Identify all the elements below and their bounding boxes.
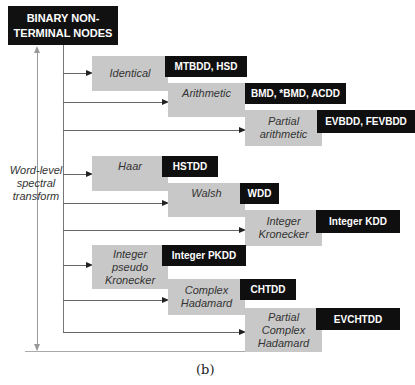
node-label-line2: Kronecker bbox=[258, 228, 308, 241]
tag-hstdd: HSTDD bbox=[162, 156, 218, 177]
figure-caption: (b) bbox=[196, 362, 214, 377]
node-haar: Haar bbox=[92, 156, 168, 191]
connector-line bbox=[63, 102, 163, 103]
tag-integer-pkdd: Integer PKDD bbox=[162, 245, 246, 266]
arrow-down-icon bbox=[34, 344, 40, 351]
connector-line bbox=[63, 174, 87, 175]
node-label-line3: Kronecker bbox=[105, 274, 155, 287]
arrow-up-icon bbox=[34, 46, 40, 53]
node-complex-hadamard: Complex Hadamard bbox=[168, 279, 245, 315]
node-partial-arithmetic: Partial arithmetic bbox=[245, 110, 322, 146]
node-label-line2: Hadamard bbox=[181, 297, 232, 310]
node-label-line3: Hadamard bbox=[258, 337, 309, 350]
tag-integer-kdd: Integer KDD bbox=[316, 210, 400, 233]
node-walsh: Walsh bbox=[168, 183, 245, 217]
side-label-line3: transform bbox=[0, 190, 72, 203]
node-label-line1: Integer bbox=[113, 248, 147, 261]
node-label-line2: pseudo bbox=[112, 261, 148, 274]
bottom-baseline bbox=[25, 351, 250, 352]
tag-mtbdd-hsd: MTBDD, HSD bbox=[165, 56, 247, 77]
tag-chtdd: CHTDD bbox=[240, 279, 296, 300]
side-label-word-level-spectral-transform: Word-level spectral transform bbox=[0, 164, 72, 203]
connector-line bbox=[63, 265, 87, 266]
root-node-binary-non-terminal-nodes: BINARY NON- TERMINAL NODES bbox=[8, 6, 118, 45]
node-label: Walsh bbox=[191, 187, 221, 200]
tag-wdd: WDD bbox=[240, 183, 279, 204]
connector-line bbox=[63, 73, 87, 74]
node-label: Identical bbox=[110, 67, 151, 80]
connector-line bbox=[63, 332, 240, 333]
node-label-line1: Partial bbox=[268, 311, 299, 324]
node-arithmetic: Arithmetic bbox=[168, 83, 245, 117]
connector-line bbox=[63, 203, 163, 204]
connector-line bbox=[63, 230, 240, 231]
node-label-line1: Complex bbox=[185, 284, 228, 297]
trunk-line bbox=[63, 45, 64, 333]
tag-evchtdd: EVCHTDD bbox=[316, 308, 400, 330]
node-label-line1: Partial bbox=[268, 115, 299, 128]
node-identical: Identical bbox=[92, 56, 168, 91]
node-label-line1: Integer bbox=[266, 215, 300, 228]
node-label-line2: arithmetic bbox=[260, 128, 308, 141]
tag-bmd-acdd: BMD, *BMD, ACDD bbox=[245, 83, 346, 104]
node-partial-complex-hadamard: Partial Complex Hadamard bbox=[245, 308, 322, 352]
node-integer-pseudo-kronecker: Integer pseudo Kronecker bbox=[92, 245, 168, 289]
node-label-line2: Complex bbox=[262, 324, 305, 337]
root-label-line2: TERMINAL NODES bbox=[14, 26, 113, 41]
tag-evbdd-fevbdd: EVBDD, FEVBDD bbox=[317, 110, 415, 133]
node-integer-kronecker: Integer Kronecker bbox=[245, 210, 322, 246]
node-label: Haar bbox=[118, 160, 142, 173]
connector-line bbox=[63, 130, 240, 131]
side-label-line2: spectral bbox=[0, 177, 72, 190]
root-label-line1: BINARY NON- bbox=[14, 11, 113, 26]
connector-line bbox=[63, 300, 163, 301]
side-label-line1: Word-level bbox=[0, 164, 72, 177]
node-label: Arithmetic bbox=[182, 87, 231, 100]
